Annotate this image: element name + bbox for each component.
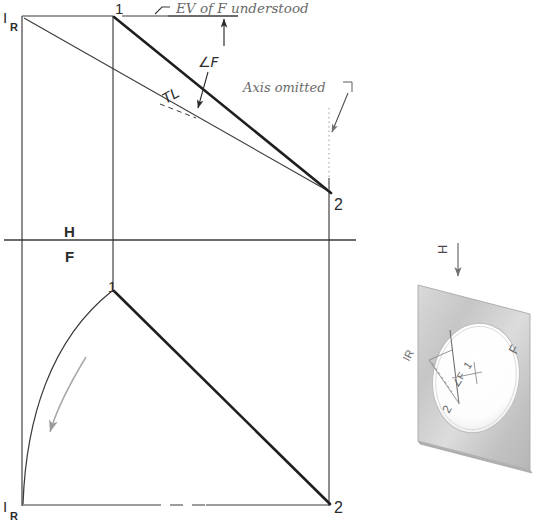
- label-bottom-right-2: 2: [334, 499, 343, 516]
- revolution-arc: [23, 291, 112, 504]
- label-bottom-left-IR-sub: R: [10, 510, 18, 522]
- front-view-line-1-2: [114, 291, 330, 504]
- label-top-left-IR-main: I: [3, 9, 7, 26]
- label-top-mid-1: 1: [115, 0, 123, 17]
- ev-note-text: EV of F understood: [175, 0, 309, 16]
- label-top-left-IR: I R: [3, 9, 18, 33]
- pictorial-ir-label: IR: [400, 348, 416, 363]
- axis-note-hook: [343, 82, 352, 92]
- pictorial-figure: H IR 1 2 ∠F F: [400, 243, 532, 473]
- ev-note-hook-leader: [155, 7, 170, 14]
- fold-label-f: F: [65, 248, 74, 265]
- top-view-geometry: [24, 17, 331, 193]
- top-view-line-1-2: [114, 17, 331, 193]
- axis-omitted-text: Axis omitted: [242, 80, 325, 95]
- axis-note-leader: [332, 93, 348, 132]
- ev-of-f-annotation: EV of F understood: [155, 0, 309, 46]
- fold-line-labels: H F: [64, 223, 75, 265]
- pictorial-h-arrow-group: H: [435, 243, 458, 276]
- front-view-geometry: [23, 291, 330, 504]
- top-view-line-IR-2: [24, 18, 330, 192]
- tl-text: TL: [160, 85, 182, 107]
- technical-drawing-canvas: EV of F understood ∠F TL Axis omitted H …: [0, 0, 545, 529]
- point-labels: I R 1 2 1 I R 2: [3, 0, 343, 522]
- label-top-left-IR-sub: R: [10, 21, 18, 33]
- pictorial-h-label: H: [435, 245, 450, 254]
- rotation-arrow-shaft: [50, 357, 86, 432]
- angle-f-leader: [198, 72, 208, 108]
- angle-f-text: ∠F: [198, 54, 220, 70]
- label-top-right-2: 2: [334, 196, 343, 213]
- label-bottom-mid-1: 1: [108, 278, 116, 295]
- fold-label-h: H: [64, 223, 75, 240]
- rotation-direction-arrow: [50, 357, 86, 432]
- label-bottom-left-IR-main: I: [3, 498, 7, 515]
- label-bottom-left-IR: I R: [3, 498, 18, 522]
